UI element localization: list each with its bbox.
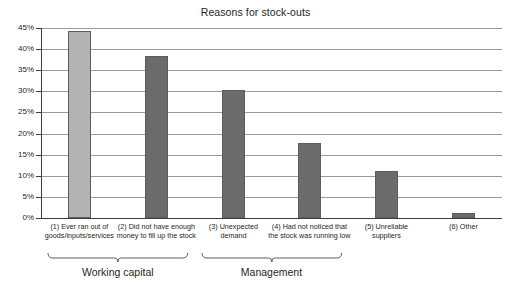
y-axis-tick-label: 40% [1,45,34,53]
x-axis-category-label: (2) Did not have enoughmoney to fill up … [114,222,199,240]
bar [375,171,398,218]
x-axis-category-label-line: goods/inputs/services [37,231,122,240]
x-axis-category-label: (4) Had not noticed thatthe stock was ru… [267,222,352,240]
y-axis-tick-label: 45% [1,24,34,32]
y-axis-tick-label: 5% [1,193,34,201]
y-axis-tick-mark [36,134,41,135]
bar [68,31,91,218]
x-axis-category-label-line: money to fill up the stock [114,231,199,240]
y-axis-tick-label: 35% [1,66,34,74]
x-axis-category-label-line: demand [191,231,276,240]
y-axis-tick-label: 15% [1,151,34,159]
x-axis-category-label-line: (1) Ever ran out of [37,222,122,231]
x-axis-category-label: (1) Ever ran out ofgoods/inputs/services [37,222,122,240]
y-axis-tick-mark [36,28,41,29]
group-bracket-label: Working capital [47,266,189,278]
y-axis-tick-mark [36,218,41,219]
chart-title: Reasons for stock-outs [0,6,511,18]
x-axis-category-label: (5) Unreliablesuppliers [344,222,429,240]
x-axis-category-label-line: the stock was running low [267,231,352,240]
y-axis-tick-labels: 45%40%35%30%25%20%15%10%5%0% [0,0,34,295]
x-axis-category-label: (6) Other [421,222,506,231]
group-bracket [201,252,343,263]
bar [222,90,245,218]
x-axis-category-label-line: (3) Unexpected [191,222,276,231]
y-axis-tick-label: 10% [1,172,34,180]
y-axis-tick-mark [36,197,41,198]
y-axis-tick-mark [36,112,41,113]
x-axis-line [41,218,502,219]
chart-figure: Reasons for stock-outs 45%40%35%30%25%20… [0,0,511,295]
bars-layer [41,28,502,218]
x-axis-category-label-line: (2) Did not have enough [114,222,199,231]
y-axis-tick-label: 20% [1,130,34,138]
x-axis-category-label-line: suppliers [344,231,429,240]
y-axis-tick-mark [36,91,41,92]
bar [298,143,321,218]
bar [145,56,168,218]
y-axis-tick-label: 25% [1,108,34,116]
y-axis-tick-mark [36,49,41,50]
bar [452,213,475,218]
y-axis-tick-label: 0% [1,214,34,222]
group-bracket [47,252,189,263]
group-bracket-label: Management [201,266,343,278]
x-axis-category-label-line: (4) Had not noticed that [267,222,352,231]
x-axis-category-label: (3) Unexpecteddemand [191,222,276,240]
y-axis-tick-label: 30% [1,87,34,95]
y-axis-tick-mark [36,155,41,156]
y-axis-tick-mark [36,70,41,71]
y-axis-tick-mark [36,176,41,177]
x-axis-category-label-line: (5) Unreliable [344,222,429,231]
x-axis-category-label-line: (6) Other [421,222,506,231]
